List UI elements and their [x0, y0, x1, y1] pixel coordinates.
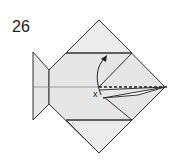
fish-diagram: [0, 0, 182, 161]
tail-fin: [33, 52, 49, 120]
x-reference-mark: x: [93, 90, 98, 99]
top-flap: [66, 20, 132, 53]
bottom-flap: [66, 120, 132, 153]
